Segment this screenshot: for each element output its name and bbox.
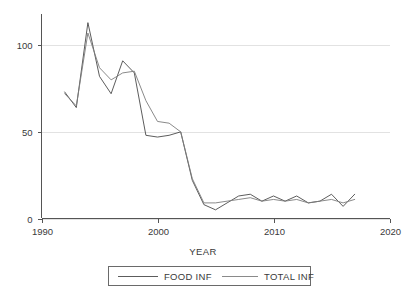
chart-legend: FOOD INF TOTAL INF	[109, 267, 315, 286]
x-axis-title: YEAR	[189, 246, 216, 257]
series-line-total-inf	[65, 33, 355, 203]
chart-figure: 050100 1990200020102020 YEAR FOOD INF TO…	[0, 0, 406, 301]
series-line-food-inf	[65, 23, 355, 210]
legend-label-total-inf: TOTAL INF	[264, 271, 314, 282]
y-tick-label: 100	[17, 40, 33, 51]
x-tick-label: 1990	[32, 226, 53, 237]
x-tick-label: 2010	[264, 226, 285, 237]
line-chart-canvas: 050100 1990200020102020 YEAR FOOD INF TO…	[0, 0, 406, 301]
y-tick-label: 0	[27, 214, 32, 225]
legend-label-food-inf: FOOD INF	[164, 271, 212, 282]
x-tick-label: 2020	[380, 226, 401, 237]
x-axis-ticks: 1990200020102020	[32, 219, 401, 237]
gridlines	[42, 46, 390, 220]
x-tick-label: 2000	[148, 226, 169, 237]
y-axis-ticks: 050100	[17, 40, 42, 225]
data-series-group	[65, 23, 355, 210]
y-tick-label: 50	[22, 127, 33, 138]
